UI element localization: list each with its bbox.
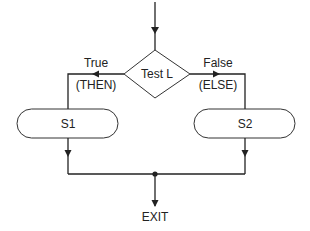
decision-node: Test L	[124, 50, 190, 98]
s1-down-arrow-icon	[65, 150, 72, 157]
exit-connector: EXIT	[142, 174, 169, 224]
entry-arrow-icon	[151, 27, 159, 34]
false-arrow-icon	[213, 71, 220, 78]
exit-label: EXIT	[142, 210, 169, 224]
merge-connector	[65, 138, 249, 177]
false-label: False	[203, 56, 233, 70]
s1-process-node: S1	[17, 109, 118, 138]
if-then-else-flowchart: Test L True (THEN) False (ELSE) S1 S2 EX…	[0, 0, 310, 231]
decision-label: Test L	[141, 67, 173, 81]
s1-label: S1	[61, 117, 76, 131]
else-label: (ELSE)	[199, 78, 238, 92]
then-label: (THEN)	[76, 78, 117, 92]
s2-down-arrow-icon	[242, 150, 249, 157]
false-branch-connector: False (ELSE)	[190, 56, 245, 109]
true-branch-connector: True (THEN)	[68, 56, 124, 109]
exit-arrow-icon	[152, 200, 159, 207]
entry-connector	[151, 2, 159, 50]
true-arrow-icon	[92, 71, 99, 78]
s2-process-node: S2	[194, 109, 295, 138]
s2-label: S2	[238, 117, 253, 131]
true-label: True	[84, 56, 109, 70]
